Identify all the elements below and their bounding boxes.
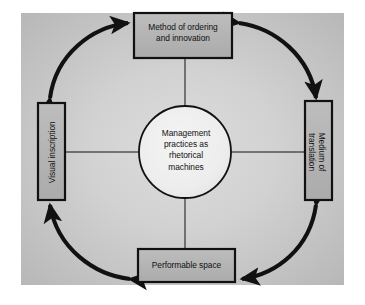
diagram-canvas: Method of ordering and innovation Perfor… — [0, 0, 365, 305]
node-box-left[interactable] — [38, 103, 65, 200]
center-circle[interactable] — [139, 106, 231, 198]
node-box-bottom[interactable] — [138, 249, 235, 282]
node-box-top[interactable] — [134, 13, 232, 58]
cycle-diagram-svg — [0, 0, 365, 305]
node-box-right[interactable] — [305, 101, 332, 200]
